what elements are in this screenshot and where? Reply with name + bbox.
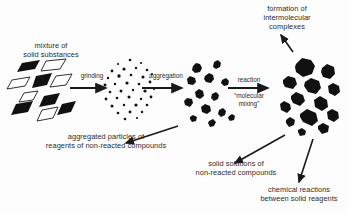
pointer-arrow-to-formation bbox=[281, 35, 293, 52]
stage-aggregates bbox=[184, 60, 235, 127]
pointer-arrow-to-solid-solutions bbox=[235, 135, 285, 163]
stage-ground-particles bbox=[104, 59, 156, 121]
stage-complexes bbox=[280, 58, 340, 136]
stage-crystals bbox=[7, 59, 76, 121]
pointer-arrow-to-aggregated-particles bbox=[126, 126, 178, 143]
diagram-graphics bbox=[0, 0, 349, 214]
diagram-canvas: mixture of solid substances formation of… bbox=[0, 0, 349, 214]
pointer-arrow-to-chemical-reactions bbox=[299, 139, 313, 182]
